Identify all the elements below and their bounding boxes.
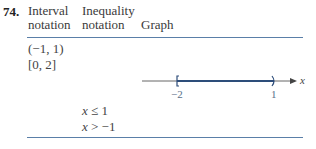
interval-row-1: (−1, 1) [28, 41, 64, 57]
inequality-row-1: x ≤ 1 [82, 103, 108, 119]
header-inequality-line1: Inequality [82, 4, 135, 18]
header-interval-line1: Interval [28, 4, 68, 18]
header-graph: Graph [141, 18, 174, 32]
inequality-row-2: x > −1 [82, 119, 115, 135]
tick-label-right: 1 [271, 88, 277, 100]
header-rule [27, 37, 303, 38]
axis-arrow-icon [290, 78, 297, 84]
number-line: x −2 1 [140, 72, 316, 100]
tick-label-left: −2 [171, 88, 183, 100]
header-interval-line2: notation [28, 18, 71, 32]
footer-rule [27, 137, 303, 138]
interval-row-2: [0, 2] [28, 57, 56, 73]
axis-label: x [299, 74, 305, 86]
header-inequality-line2: notation [82, 18, 125, 32]
problem-number: 74. [3, 4, 19, 20]
